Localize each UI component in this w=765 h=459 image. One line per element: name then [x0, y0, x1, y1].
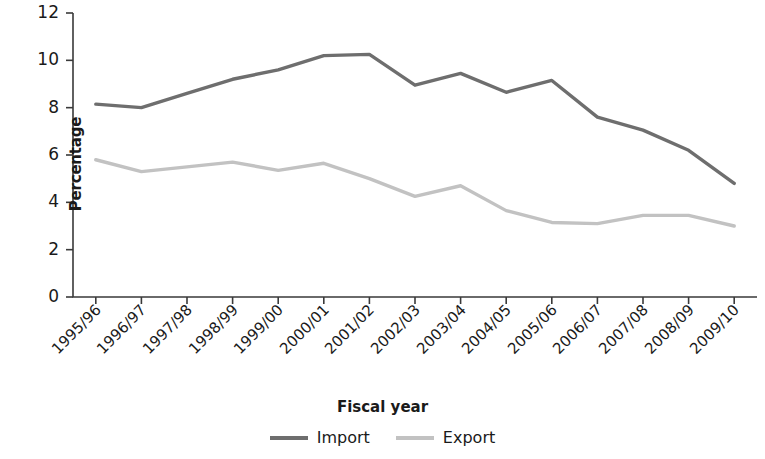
y-tick-label: 10	[25, 49, 59, 69]
y-tick-label: 2	[25, 239, 59, 259]
legend-item-export[interactable]: Export	[396, 430, 495, 446]
data-series	[96, 54, 734, 226]
y-tick-label: 12	[25, 2, 59, 22]
chart-legend: ImportExport	[0, 430, 765, 446]
legend-swatch-icon	[270, 436, 308, 440]
legend-item-import[interactable]: Import	[270, 430, 370, 446]
series-line-export	[96, 160, 734, 226]
legend-label: Import	[317, 430, 370, 446]
y-tick-label: 6	[25, 144, 59, 164]
y-tick-label: 0	[25, 286, 59, 306]
y-tick-label: 4	[25, 191, 59, 211]
legend-swatch-icon	[396, 436, 434, 440]
plot-area	[0, 0, 765, 459]
x-axis-title: Fiscal year	[0, 398, 765, 416]
series-line-import	[96, 54, 734, 183]
y-axis-title: Percentage	[67, 64, 85, 264]
legend-label: Export	[443, 430, 495, 446]
axes	[66, 13, 757, 304]
y-tick-label: 8	[25, 97, 59, 117]
line-chart: Percentage 121086420 1995/961996/971997/…	[0, 0, 765, 459]
